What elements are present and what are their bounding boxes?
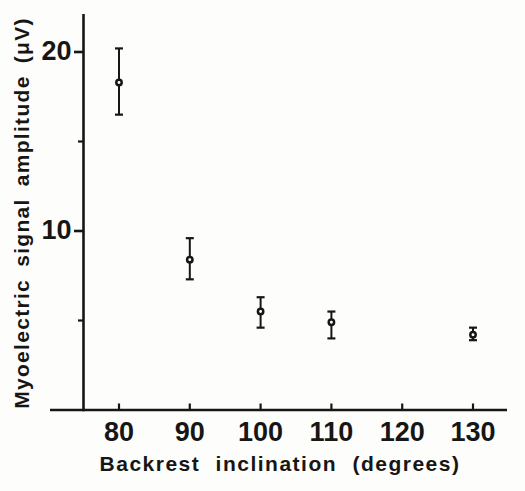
plot-area: 80901001101201302010 bbox=[0, 0, 525, 491]
x-axis-label: Backrest inclination (degrees) bbox=[60, 452, 500, 476]
y-tick-label: 20 bbox=[41, 36, 71, 66]
data-point-marker bbox=[116, 80, 121, 85]
y-tick-label: 10 bbox=[41, 215, 71, 245]
chart-figure: 80901001101201302010 Myoelectric signal … bbox=[0, 0, 525, 491]
x-tick-label: 90 bbox=[175, 417, 205, 447]
data-point-marker bbox=[470, 332, 475, 337]
y-axis-label: Myoelectric signal amplitude (μV) bbox=[10, 17, 34, 409]
data-point-marker bbox=[187, 257, 192, 262]
x-tick-label: 130 bbox=[450, 417, 495, 447]
x-tick-label: 80 bbox=[104, 417, 134, 447]
x-tick-label: 100 bbox=[238, 417, 283, 447]
x-tick-label: 110 bbox=[310, 417, 354, 447]
data-point-marker bbox=[329, 320, 334, 325]
data-point-marker bbox=[258, 309, 263, 314]
x-tick-label: 120 bbox=[380, 417, 425, 447]
